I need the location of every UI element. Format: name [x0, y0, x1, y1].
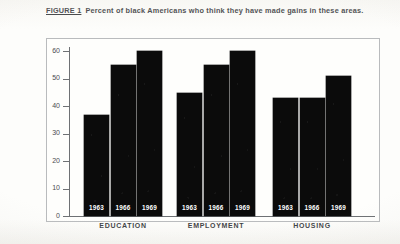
- bar-group-label: EDUCATION: [84, 222, 162, 229]
- figure-caption: FIGURE 1Percent of black Americans who t…: [46, 6, 386, 15]
- bar[interactable]: 1966: [204, 65, 229, 216]
- bar-group-label: HOUSING: [273, 222, 351, 229]
- bar-year-label: 1969: [137, 204, 162, 211]
- bar-year-label: 1963: [273, 204, 298, 211]
- bar[interactable]: 1963: [273, 98, 298, 216]
- bar-year-label: 1966: [300, 204, 325, 211]
- bar-group: 196319661969HOUSING: [273, 46, 351, 216]
- bar-year-label: 1963: [84, 204, 109, 211]
- bar-groups-layer: 196319661969EDUCATION196319661969EMPLOYM…: [47, 39, 381, 223]
- bar-group: 196319661969EDUCATION: [84, 46, 162, 216]
- bar-year-label: 1969: [230, 204, 255, 211]
- bar-group-bars: 196319661969: [273, 46, 351, 216]
- bar[interactable]: 1963: [84, 115, 109, 216]
- bar[interactable]: 1966: [111, 65, 136, 216]
- bar[interactable]: 1969: [137, 51, 162, 216]
- bar-group-bars: 196319661969: [84, 46, 162, 216]
- chart-plot-frame: 0102030405060 196319661969EDUCATION19631…: [46, 38, 380, 222]
- bar[interactable]: 1969: [326, 76, 351, 216]
- bar-group: 196319661969EMPLOYMENT: [177, 46, 255, 216]
- bar-year-label: 1969: [326, 204, 351, 211]
- bar-year-label: 1966: [204, 204, 229, 211]
- bar[interactable]: 1963: [177, 93, 202, 216]
- bar-year-label: 1966: [111, 204, 136, 211]
- figure-label: FIGURE 1: [46, 6, 81, 15]
- bar-group-label: EMPLOYMENT: [177, 222, 255, 229]
- figure-caption-text: Percent of black Americans who think the…: [85, 6, 363, 15]
- bar-year-label: 1963: [177, 204, 202, 211]
- bar-group-bars: 196319661969: [177, 46, 255, 216]
- bar[interactable]: 1969: [230, 51, 255, 216]
- bar[interactable]: 1966: [300, 98, 325, 216]
